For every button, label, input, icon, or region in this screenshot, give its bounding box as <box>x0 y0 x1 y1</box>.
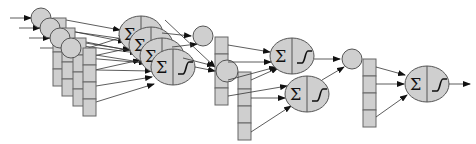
neuron: Σ <box>285 76 329 112</box>
neural-network-diagram: Σ Σ Σ Σ <box>0 0 476 144</box>
neuron: Σ <box>270 38 314 74</box>
svg-text:Σ: Σ <box>290 85 301 104</box>
svg-text:Σ: Σ <box>410 75 421 94</box>
neuron: Σ <box>151 49 195 85</box>
output-layer: Σ <box>405 66 470 102</box>
input-neuron <box>61 38 81 58</box>
input-layer <box>31 8 96 116</box>
hidden-layer-1: Σ Σ Σ Σ <box>119 16 195 85</box>
layer2-outputs <box>193 26 251 140</box>
hidden-layer-2: Σ Σ <box>270 38 329 112</box>
layer3-output <box>342 49 376 127</box>
edges-to-layer3-output <box>314 59 344 80</box>
svg-text:Σ: Σ <box>156 58 167 77</box>
output-neuron <box>193 26 213 46</box>
svg-text:Σ: Σ <box>275 47 286 66</box>
neuron: Σ <box>405 66 449 102</box>
output-neuron <box>342 49 362 69</box>
weight-vector <box>83 48 96 116</box>
edges-to-output <box>376 67 407 117</box>
output-neuron <box>216 60 238 82</box>
